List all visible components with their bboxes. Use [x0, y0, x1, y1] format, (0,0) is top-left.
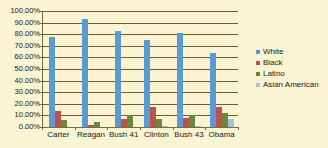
legend-swatch-icon	[256, 50, 260, 54]
legend-item-asian-american[interactable]: Asian American	[256, 79, 328, 90]
x-axis-label-bush-43: Bush 43	[173, 129, 206, 141]
y-axis: 100.00%90.00%80.00%70.00%60.00%50.00%40.…	[0, 11, 40, 127]
x-axis-label-reagan: Reagan	[75, 129, 108, 141]
y-axis-tick-label: 90.00%	[0, 19, 40, 27]
legend-item-black[interactable]: Black	[256, 57, 328, 68]
bar-group	[205, 11, 238, 127]
x-axis-tick	[238, 127, 239, 130]
bar	[115, 31, 121, 127]
y-axis-tick-label: 40.00%	[0, 77, 40, 85]
x-axis-tick	[140, 127, 141, 130]
bar-group	[140, 11, 173, 127]
legend-item-label: Latino	[263, 69, 285, 79]
x-axis-label-obama: Obama	[205, 129, 238, 141]
bar	[82, 19, 88, 127]
x-axis-labels: CarterReaganBush 41ClintonBush 43Obama	[42, 129, 239, 143]
y-axis-tick-label: 30.00%	[0, 88, 40, 96]
x-axis-label-bush-41: Bush 41	[107, 129, 140, 141]
bar-group	[173, 11, 206, 127]
legend-item-white[interactable]: White	[256, 46, 328, 57]
legend-swatch-icon	[256, 83, 260, 87]
legend-item-label: Asian American	[263, 80, 319, 90]
y-axis-tick-label: 80.00%	[0, 30, 40, 38]
y-axis-tick-label: 70.00%	[0, 42, 40, 50]
x-axis-label-carter: Carter	[42, 129, 75, 141]
bar-group	[75, 11, 108, 127]
chart-legend: WhiteBlackLatinoAsian American	[256, 46, 328, 90]
bar-group	[42, 11, 75, 127]
bar	[228, 119, 234, 127]
legend-swatch-icon	[256, 61, 260, 65]
bar	[61, 120, 67, 127]
bar-chart: 100.00%90.00%80.00%70.00%60.00%50.00%40.…	[0, 0, 328, 148]
x-axis-tick	[42, 127, 43, 130]
bar	[162, 126, 168, 127]
chart-title	[96, 0, 216, 1]
y-axis-tick-label: 20.00%	[0, 100, 40, 108]
y-axis-tick-label: 60.00%	[0, 53, 40, 61]
x-axis-tick	[205, 127, 206, 130]
y-axis-tick-label: 100.00%	[0, 7, 40, 15]
x-axis-tick	[75, 127, 76, 130]
bar	[177, 33, 183, 127]
x-axis-tick	[173, 127, 174, 130]
legend-item-latino[interactable]: Latino	[256, 68, 328, 79]
bar	[127, 115, 133, 127]
bar	[94, 122, 100, 127]
y-axis-tick-label: 50.00%	[0, 65, 40, 73]
y-axis-tick-label: 0.00%	[0, 123, 40, 131]
legend-item-label: Black	[263, 58, 283, 68]
x-axis-label-clinton: Clinton	[140, 129, 173, 141]
x-axis-tick	[107, 127, 108, 130]
bar	[195, 126, 201, 127]
legend-swatch-icon	[256, 72, 260, 76]
plot-area	[42, 11, 238, 127]
legend-item-label: White	[263, 47, 283, 57]
y-axis-tick-label: 10.00%	[0, 111, 40, 119]
bar-group	[107, 11, 140, 127]
